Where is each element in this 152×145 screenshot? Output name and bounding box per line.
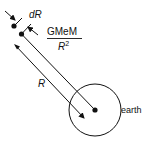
earth-label: earth bbox=[121, 105, 142, 115]
dr-arrow-inner bbox=[28, 27, 38, 35]
gravity-diagram: dR GMeM R2 R earth bbox=[0, 0, 152, 145]
force-denominator: R2 bbox=[58, 40, 69, 52]
dr-tick-inner bbox=[22, 24, 32, 34]
distance-label: R bbox=[38, 78, 45, 89]
dr-label: dR bbox=[29, 9, 42, 20]
distance-arrow bbox=[15, 45, 84, 118]
force-numerator: GMeM bbox=[47, 26, 77, 37]
dr-arrow-outer bbox=[5, 11, 15, 20]
exponent: 2 bbox=[65, 40, 69, 47]
dr-tick-outer bbox=[14, 18, 22, 26]
